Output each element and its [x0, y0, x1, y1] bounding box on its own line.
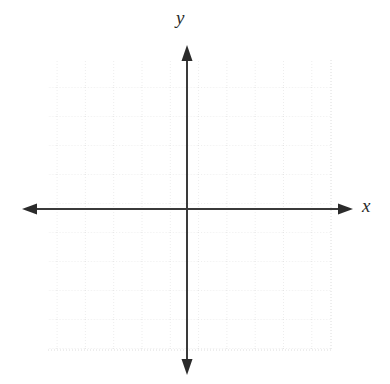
- y-axis-arrow-up-icon: [182, 45, 193, 61]
- x-axis-arrow-right-icon: [338, 204, 353, 215]
- y-axis-arrow-down-icon: [182, 359, 193, 375]
- x-axis-arrow-left-icon: [22, 204, 37, 215]
- x-axis-label: x: [362, 196, 370, 215]
- coordinate-plane-canvas: [0, 0, 390, 384]
- grid-layer: [48, 60, 331, 350]
- grid-area: [48, 60, 331, 350]
- coordinate-plane-figure: y x: [0, 0, 390, 384]
- y-axis-label: y: [176, 8, 184, 27]
